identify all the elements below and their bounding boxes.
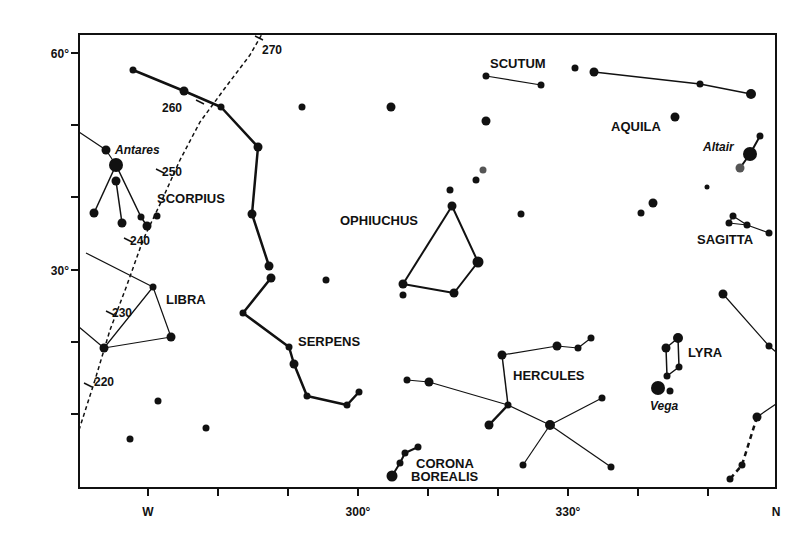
star-dot (450, 289, 459, 298)
star-dot (608, 464, 615, 471)
star-dot (100, 344, 109, 353)
star-dot (286, 344, 293, 351)
constellation-lines (79, 70, 776, 479)
star-dot (473, 257, 484, 268)
star-dot (304, 393, 311, 400)
star-chart: 60°30° W300°330°N 220230240250260270 SCO… (0, 0, 812, 539)
star-dot (387, 471, 398, 482)
star-dot (480, 167, 487, 174)
constellation-label: HERCULES (513, 368, 585, 383)
star-name-label: Vega (650, 399, 679, 413)
star-dot (299, 104, 306, 111)
star-dot (387, 103, 396, 112)
x-tick-label: W (142, 505, 154, 519)
star-dot (498, 351, 507, 360)
star-dot (203, 425, 210, 432)
star-dot (518, 211, 525, 218)
star-dot (127, 436, 134, 443)
ecliptic-label: 220 (94, 375, 114, 389)
constellation-line (550, 425, 611, 467)
ecliptic-label: 270 (262, 43, 282, 57)
star-dot (415, 444, 422, 451)
star-dot (757, 133, 764, 140)
star-dot (538, 82, 545, 89)
star-dot (739, 462, 746, 469)
ecliptic-label: 250 (162, 165, 182, 179)
star-dot (483, 73, 490, 80)
star-dot (485, 421, 494, 430)
constellation-line (133, 70, 269, 266)
star-dot (402, 450, 409, 457)
star-dot (473, 177, 480, 184)
star-dot (240, 310, 247, 317)
y-tick-label: 30° (51, 264, 69, 278)
star-dot (150, 284, 157, 291)
constellation-label: SERPENS (298, 334, 360, 349)
star-dot (267, 274, 276, 283)
star-dot (447, 187, 454, 194)
star-dot (545, 420, 555, 430)
constellation-line (730, 417, 757, 479)
constellation-label: OPHIUCHUS (340, 213, 418, 228)
x-tick-label: 300° (346, 505, 371, 519)
star-dot (290, 360, 299, 369)
constellation-label: AQUILA (611, 119, 661, 134)
star-dot (138, 214, 145, 221)
x-tick-label: 330° (556, 505, 581, 519)
chart-frame (79, 34, 776, 488)
star-dot (727, 476, 734, 483)
constellation-label: LIBRA (166, 292, 206, 307)
star-dot (705, 185, 710, 190)
star-dot (482, 117, 491, 126)
star-dot (248, 210, 257, 219)
stars (90, 65, 773, 483)
star-dot (766, 230, 773, 237)
constellation-label: BOREALIS (411, 469, 479, 484)
x-tick-label: N (772, 505, 781, 519)
constellation-line (407, 380, 602, 425)
star-dot (676, 364, 683, 371)
ecliptic-tick (196, 100, 204, 104)
star-dot (588, 335, 595, 342)
star-dot (404, 377, 411, 384)
star-names: AntaresAltairVega (114, 140, 735, 413)
star-dot (726, 220, 733, 227)
constellation-label: SCORPIUS (157, 191, 225, 206)
star-dot (746, 89, 756, 99)
star-dot (180, 87, 189, 96)
star-dot (344, 402, 351, 409)
star-name-label: Antares (114, 143, 160, 157)
star-dot (356, 389, 363, 396)
star-dot (743, 147, 757, 161)
constellation-line (594, 72, 751, 94)
star-dot (505, 402, 512, 409)
constellation-label: SCUTUM (490, 56, 546, 71)
star-name-label: Altair (702, 140, 735, 154)
constellation-line (86, 253, 171, 348)
star-dot (155, 398, 162, 405)
star-dot (448, 202, 457, 211)
star-dot (730, 213, 737, 220)
constellation-line (79, 327, 104, 348)
star-dot (143, 222, 152, 231)
star-dot (218, 104, 225, 111)
star-dot (102, 146, 111, 155)
star-dot (572, 65, 579, 72)
star-dot (649, 199, 658, 208)
star-dot (736, 164, 745, 173)
ecliptic-label: 240 (130, 234, 150, 248)
star-dot (397, 460, 404, 467)
constellation-line (486, 76, 541, 85)
ecliptic-tick (84, 383, 92, 387)
constellation-label: LYRA (688, 345, 723, 360)
constellation-line (523, 425, 550, 465)
star-dot (323, 277, 330, 284)
y-axis-ticks: 60°30° (51, 47, 79, 414)
star-dot (399, 280, 408, 289)
star-dot (167, 333, 176, 342)
y-tick-label: 60° (51, 47, 69, 61)
star-dot (673, 333, 683, 343)
star-dot (254, 143, 263, 152)
star-dot (719, 290, 728, 299)
star-dot (400, 292, 407, 299)
